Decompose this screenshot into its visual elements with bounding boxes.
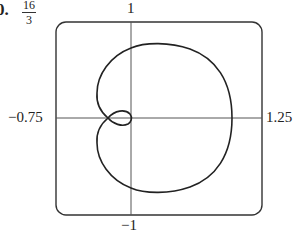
x-min-label: −0.75 xyxy=(8,109,43,126)
polar-plot xyxy=(0,0,299,231)
y-max-label: 1 xyxy=(127,0,135,17)
y-min-label: −1 xyxy=(121,217,137,231)
x-max-label: 1.25 xyxy=(266,109,292,126)
